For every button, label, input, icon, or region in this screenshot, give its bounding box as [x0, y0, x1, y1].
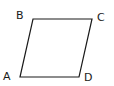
vertex-label-c: C — [97, 11, 105, 24]
vertex-label-b: B — [16, 9, 24, 22]
vertex-label-d: D — [84, 71, 92, 84]
parallelogram-diagram: A B C D — [0, 0, 114, 86]
vertex-label-a: A — [3, 70, 11, 83]
parallelogram-shape — [20, 19, 92, 77]
